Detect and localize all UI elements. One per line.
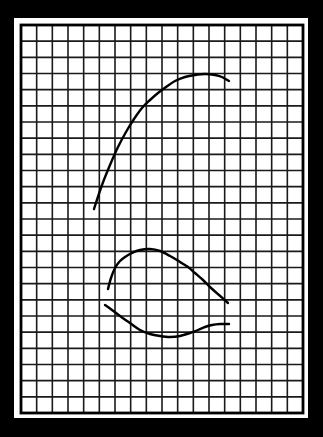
paper-sheet — [14, 18, 308, 418]
drawing-surface — [0, 0, 323, 437]
graph-paper-diagram — [0, 0, 323, 437]
